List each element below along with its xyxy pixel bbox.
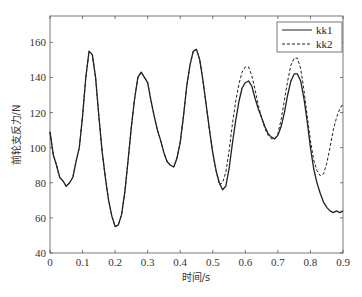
- x-tick-label: 0.9: [336, 256, 350, 268]
- x-tick-label: 0.7: [271, 256, 285, 268]
- y-tick-label: 80: [35, 177, 47, 189]
- x-tick-label: 0: [47, 256, 53, 268]
- x-tick-label: 0.8: [304, 256, 318, 268]
- y-tick-label: 160: [30, 36, 47, 48]
- x-tick-label: 0.4: [173, 256, 187, 268]
- x-tick-label: 0.3: [141, 256, 155, 268]
- legend: kk1 kk2: [277, 22, 342, 52]
- x-tick-label: 0.5: [206, 256, 220, 268]
- y-tick-label: 60: [35, 212, 47, 224]
- legend-label-kk2: kk2: [316, 38, 333, 50]
- y-tick-label: 120: [30, 107, 47, 119]
- y-tick-label: 40: [35, 247, 47, 259]
- legend-label-kk1: kk1: [316, 24, 333, 36]
- x-axis-label: 时间/s: [182, 271, 211, 283]
- x-tick-label: 0.2: [108, 256, 122, 268]
- x-tick-label: 0.1: [76, 256, 90, 268]
- y-tick-label: 140: [30, 71, 47, 83]
- y-axis-label: 前轮支反力/N: [10, 105, 22, 166]
- plot-area: 00.10.20.30.40.50.60.70.80.9 40608010012…: [30, 16, 351, 268]
- line-chart: 00.10.20.30.40.50.60.70.80.9 40608010012…: [0, 0, 362, 297]
- x-tick-label: 0.6: [238, 256, 252, 268]
- y-tick-label: 100: [30, 142, 47, 154]
